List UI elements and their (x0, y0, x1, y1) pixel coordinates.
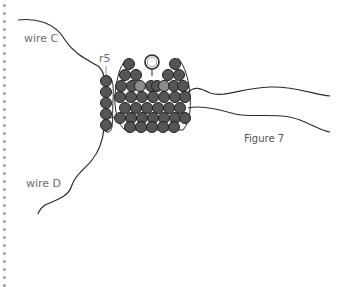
wire-right-upper (188, 87, 330, 96)
wire-right-lower (188, 107, 330, 132)
wire-c (18, 20, 104, 80)
r5-label: r5 (99, 52, 111, 65)
wire-d (38, 128, 104, 214)
figure-caption: Figure 7 (244, 133, 284, 144)
wire-c-label: wire C (24, 32, 58, 45)
r5-bead-column (101, 76, 112, 131)
wire-d-label: wire D (26, 177, 61, 190)
